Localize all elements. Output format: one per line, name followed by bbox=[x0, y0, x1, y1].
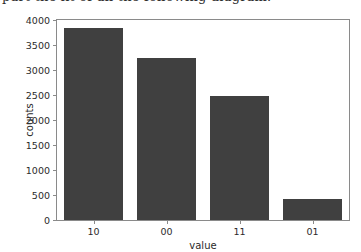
bar-slot bbox=[276, 20, 349, 220]
y-tick-mark bbox=[53, 195, 57, 196]
y-tick-mark bbox=[53, 70, 57, 71]
x-tick-mark bbox=[94, 220, 95, 224]
y-tick-label: 3500 bbox=[26, 40, 50, 51]
x-tick-label: 00 bbox=[160, 226, 172, 237]
y-tick-label: 3000 bbox=[26, 65, 50, 76]
chart-axes: 05001000150020002500300035004000 1000110… bbox=[56, 19, 350, 221]
plot-area: 05001000150020002500300035004000 1000110… bbox=[57, 20, 349, 220]
y-tick-mark bbox=[53, 170, 57, 171]
x-tick-label: 10 bbox=[87, 226, 99, 237]
y-axis-label: counts bbox=[24, 103, 35, 136]
y-tick-label: 1000 bbox=[26, 165, 50, 176]
y-tick-mark bbox=[53, 220, 57, 221]
y-tick-mark bbox=[53, 45, 57, 46]
bar-slot bbox=[57, 20, 130, 220]
bar-slot bbox=[203, 20, 276, 220]
x-axis-label: value bbox=[57, 240, 349, 251]
y-tick-label: 2500 bbox=[26, 90, 50, 101]
y-tick-mark bbox=[53, 120, 57, 121]
chart-figure: 05001000150020002500300035004000 1000110… bbox=[0, 9, 361, 252]
bar-10 bbox=[64, 28, 122, 221]
bar-series bbox=[57, 20, 349, 220]
bar-00 bbox=[137, 58, 195, 221]
x-tick-mark bbox=[167, 220, 168, 224]
bar-11 bbox=[210, 96, 268, 221]
bar-slot bbox=[130, 20, 203, 220]
document-text-remnant-line: part the lit of all the following diagra… bbox=[2, 0, 271, 4]
y-tick-mark bbox=[53, 95, 57, 96]
y-tick-mark bbox=[53, 20, 57, 21]
y-tick-label: 0 bbox=[44, 215, 50, 226]
x-tick-mark bbox=[313, 220, 314, 224]
x-tick-label: 11 bbox=[233, 226, 245, 237]
y-tick-mark bbox=[53, 145, 57, 146]
x-tick-label: 01 bbox=[306, 226, 318, 237]
x-tick-mark bbox=[240, 220, 241, 224]
y-tick-label: 500 bbox=[32, 190, 50, 201]
bar-01 bbox=[283, 199, 341, 221]
y-tick-label: 4000 bbox=[26, 15, 50, 26]
document-text-remnant: part the lit of all the following diagra… bbox=[0, 0, 361, 9]
y-tick-label: 1500 bbox=[26, 140, 50, 151]
